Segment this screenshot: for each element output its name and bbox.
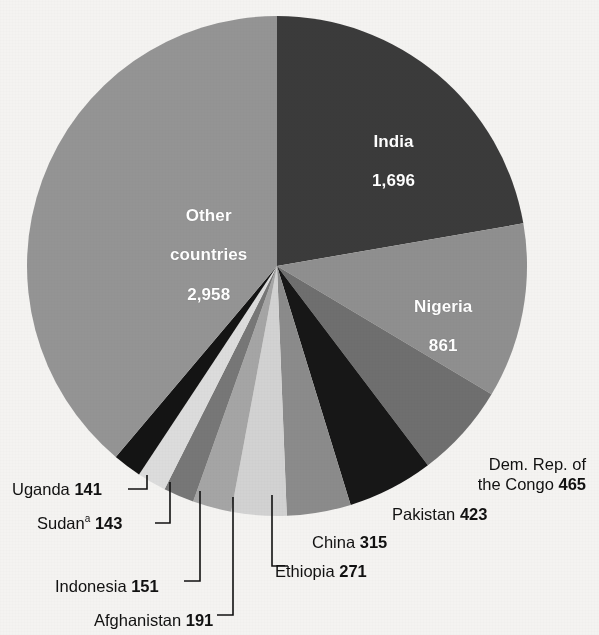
slice-label-nigeria: Nigeria 861 bbox=[414, 277, 472, 356]
slice-label-china-name: China bbox=[312, 533, 360, 551]
pie-chart: India 1,696 Nigeria 861 Other countries … bbox=[0, 0, 599, 635]
slice-label-pakistan-value: 423 bbox=[460, 505, 488, 523]
slice-label-ethiopia-name: Ethiopia bbox=[275, 562, 339, 580]
slice-label-congo-value: 465 bbox=[558, 475, 586, 493]
slice-label-indonesia-name: Indonesia bbox=[55, 577, 131, 595]
slice-label-indonesia: Indonesia 151 bbox=[55, 577, 159, 597]
slice-label-ethiopia-value: 271 bbox=[339, 562, 367, 580]
slice-label-other-value: 2,958 bbox=[187, 285, 230, 304]
slice-label-pakistan: Pakistan 423 bbox=[392, 505, 487, 525]
pie-chart-svg bbox=[0, 0, 599, 635]
slice-label-afghanistan-name: Afghanistan bbox=[94, 611, 186, 629]
slice-label-sudan-name: Sudan bbox=[37, 514, 85, 532]
slice-label-china: China 315 bbox=[312, 533, 387, 553]
slice-label-afghanistan-value: 191 bbox=[186, 611, 214, 629]
slice-label-india-name: India bbox=[373, 132, 413, 151]
slice-label-other-line1: Other bbox=[186, 206, 232, 225]
slice-label-congo-line2: the Congo bbox=[478, 475, 559, 493]
slice-label-sudan: Sudana 143 bbox=[37, 513, 122, 533]
slice-label-ethiopia: Ethiopia 271 bbox=[275, 562, 367, 582]
slice-label-other-line2: countries bbox=[170, 245, 247, 264]
pie-slices bbox=[27, 16, 527, 516]
slice-label-other-countries: Other countries 2,958 bbox=[170, 186, 247, 304]
slice-label-china-value: 315 bbox=[360, 533, 388, 551]
slice-label-uganda-value: 141 bbox=[74, 480, 102, 498]
slice-label-sudan-value: 143 bbox=[95, 514, 123, 532]
slice-label-india-value: 1,696 bbox=[372, 171, 415, 190]
slice-label-uganda-name: Uganda bbox=[12, 480, 74, 498]
slice-label-indonesia-value: 151 bbox=[131, 577, 159, 595]
slice-label-afghanistan: Afghanistan 191 bbox=[94, 611, 213, 631]
slice-label-india: India 1,696 bbox=[372, 112, 415, 191]
slice-label-congo: Dem. Rep. of the Congo 465 bbox=[456, 455, 586, 495]
leader-line-indonesia bbox=[184, 491, 200, 581]
slice-label-uganda: Uganda 141 bbox=[12, 480, 102, 500]
slice-label-pakistan-name: Pakistan bbox=[392, 505, 460, 523]
slice-label-nigeria-value: 861 bbox=[429, 336, 458, 355]
leader-line-afghanistan bbox=[217, 497, 233, 615]
slice-label-congo-line1: Dem. Rep. of bbox=[489, 455, 586, 473]
slice-label-nigeria-name: Nigeria bbox=[414, 297, 472, 316]
